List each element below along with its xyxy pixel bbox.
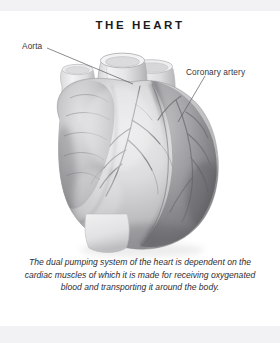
caption-text: The dual pumping system of the heart is …	[24, 256, 256, 294]
heart-body-group	[52, 53, 226, 257]
heart-diagram-page: THE HEART Aorta Coronary artery The dual…	[0, 0, 280, 343]
page-title: THE HEART	[0, 19, 280, 31]
label-aorta: Aorta	[22, 41, 42, 51]
label-coronary-artery: Coronary artery	[186, 67, 245, 77]
